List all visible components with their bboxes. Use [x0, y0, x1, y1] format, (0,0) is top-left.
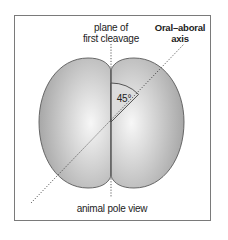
axis-label-line2: axis	[150, 33, 210, 44]
right-blastomere	[111, 58, 184, 188]
plane-label-line1: plane of	[78, 22, 144, 33]
view-caption: animal pole view	[60, 203, 164, 214]
axis-label: Oral–aboral axis	[150, 22, 210, 44]
plane-label-line2: first cleavage	[78, 33, 144, 44]
plane-label: plane of first cleavage	[78, 22, 144, 44]
angle-label: 45°	[113, 93, 135, 104]
left-blastomere	[39, 58, 111, 188]
axis-label-line1: Oral–aboral	[150, 22, 210, 33]
